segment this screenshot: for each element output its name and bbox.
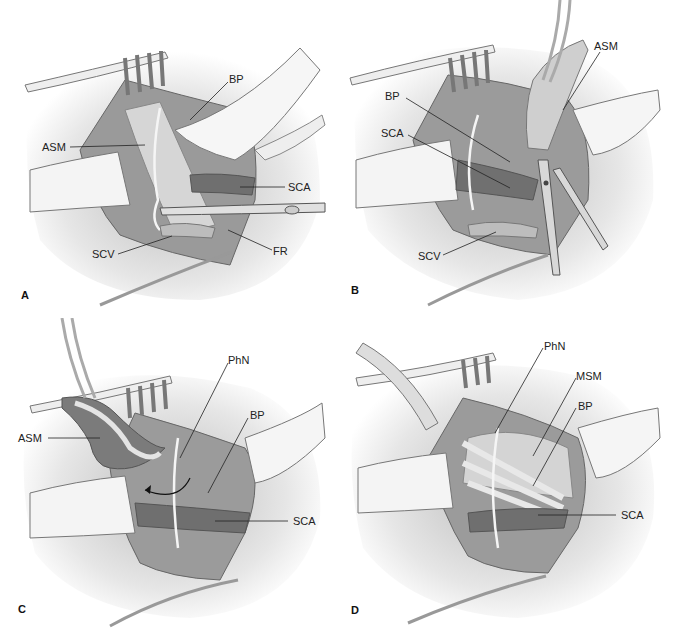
clamp-ring — [285, 206, 299, 214]
label-scv: SCV — [418, 250, 441, 262]
label-asm: ASM — [42, 141, 66, 153]
panel-letter-a: A — [21, 289, 29, 301]
panel-d: PhN MSM BP SCA D — [338, 318, 675, 635]
label-phn: PhN — [228, 354, 249, 366]
panel-b-illustration — [338, 0, 675, 317]
artery-sca — [468, 509, 568, 532]
panel-a: ASM BP SCA SCV FR A — [0, 0, 337, 317]
panel-c-illustration — [0, 318, 337, 635]
vein-scv — [160, 223, 215, 238]
scissors-pivot — [544, 181, 549, 186]
label-fr: FR — [273, 245, 288, 257]
label-scv: SCV — [92, 248, 115, 260]
label-bp: BP — [578, 400, 593, 412]
label-msm: MSM — [576, 370, 602, 382]
panel-letter-b: B — [351, 284, 359, 296]
label-bp: BP — [250, 409, 265, 421]
label-asm: ASM — [18, 432, 42, 444]
artery-sca — [190, 174, 255, 195]
label-asm: ASM — [594, 40, 618, 52]
panel-c: ASM PhN BP SCA C — [0, 318, 337, 635]
label-bp: BP — [385, 90, 400, 102]
label-phn: PhN — [544, 340, 565, 352]
panel-b: ASM BP SCA SCV B — [338, 0, 675, 317]
label-sca: SCA — [381, 127, 404, 139]
label-sca: SCA — [288, 181, 311, 193]
label-sca: SCA — [621, 509, 644, 521]
label-bp: BP — [229, 73, 244, 85]
panel-letter-d: D — [351, 604, 359, 616]
panel-letter-c: C — [18, 603, 26, 615]
panel-d-illustration — [338, 318, 675, 635]
panel-a-illustration — [0, 0, 337, 317]
label-sca: SCA — [293, 515, 316, 527]
